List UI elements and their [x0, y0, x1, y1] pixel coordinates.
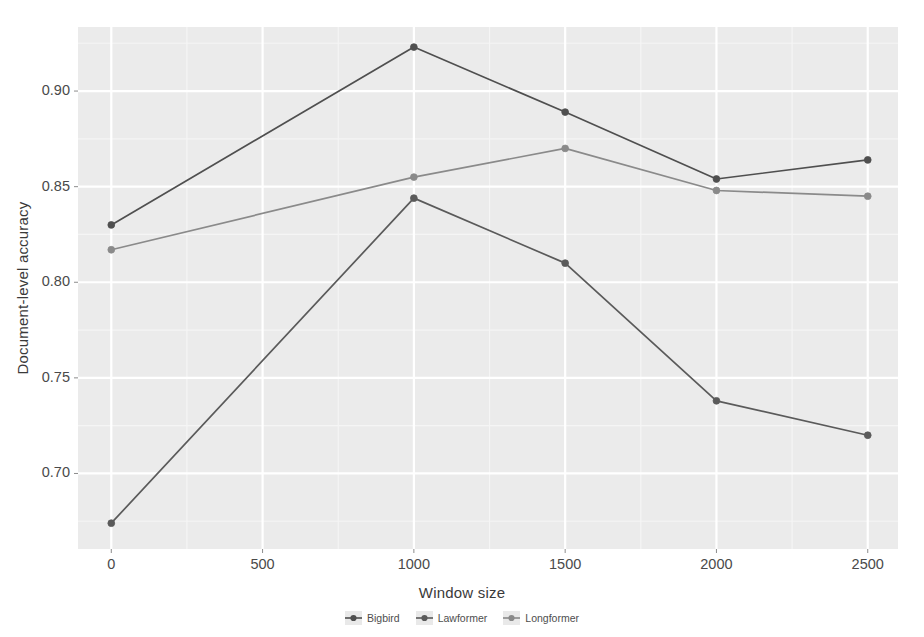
data-point [864, 193, 871, 200]
legend-item-label: Bigbird [367, 612, 400, 624]
plot-canvas [0, 0, 924, 637]
y-tick-label: 0.85 [20, 178, 70, 194]
data-point [410, 195, 417, 202]
data-point [562, 109, 569, 116]
legend-item-lawformer[interactable]: Lawformer [416, 611, 488, 625]
x-tick-label: 0 [71, 556, 151, 572]
data-point [713, 397, 720, 404]
legend-item-bigbird[interactable]: Bigbird [345, 611, 400, 625]
y-tick-label: 0.80 [20, 273, 70, 289]
data-point [864, 432, 871, 439]
x-tick-label: 2500 [828, 556, 908, 572]
x-tick-label: 500 [223, 556, 303, 572]
data-point [108, 222, 115, 229]
chart-legend: BigbirdLawformerLongformer [0, 611, 924, 625]
data-point [713, 187, 720, 194]
data-point [108, 246, 115, 253]
legend-item-label: Longformer [525, 612, 579, 624]
x-tick-label: 1500 [525, 556, 605, 572]
data-point [562, 145, 569, 152]
x-tick-label: 2000 [676, 556, 756, 572]
y-tick-label: 0.70 [20, 464, 70, 480]
line-chart: Document-level accuracy Window size 0.70… [0, 0, 924, 637]
data-point [410, 44, 417, 51]
data-point [410, 174, 417, 181]
point-marker-icon [416, 611, 433, 625]
legend-item-longformer[interactable]: Longformer [503, 611, 579, 625]
y-tick-label: 0.75 [20, 369, 70, 385]
data-point [864, 156, 871, 163]
plot-panel-background [78, 27, 898, 549]
x-tick-label: 1000 [374, 556, 454, 572]
point-marker-icon [503, 611, 520, 625]
data-point [108, 520, 115, 527]
data-point [713, 176, 720, 183]
y-tick-label: 0.90 [20, 82, 70, 98]
legend-item-label: Lawformer [438, 612, 488, 624]
data-point [562, 260, 569, 267]
x-axis-title: Window size [0, 584, 924, 601]
point-marker-icon [345, 611, 362, 625]
